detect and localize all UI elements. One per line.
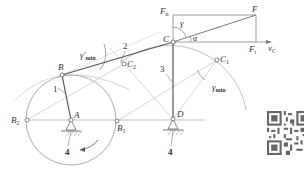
joint-c1 — [215, 58, 219, 62]
label-c2: C2 — [127, 59, 136, 70]
label-d: D — [176, 109, 184, 119]
leader-1 — [58, 88, 65, 93]
label-gamma-min-prime: γ'min — [80, 50, 96, 61]
construction-line-c2-ext — [110, 48, 124, 64]
rocker-arc — [120, 46, 246, 110]
label-link-4-right: 4 — [168, 147, 173, 157]
joint-c — [171, 40, 175, 44]
label-fn: Fn — [159, 6, 169, 17]
joint-c2 — [122, 62, 126, 66]
linkage-diagram: A B B1 B2 C C1 C2 D F Fn Ft vC γ α γ'min… — [0, 0, 304, 181]
joint-b — [60, 73, 64, 77]
label-gamma: γ — [180, 18, 184, 28]
label-link-4-left: 4 — [65, 147, 70, 157]
construction-line-b-ext — [62, 32, 160, 75]
label-f: F — [251, 4, 258, 14]
gamma-arc — [173, 27, 186, 37]
label-a: A — [73, 110, 80, 120]
leader-4-right — [171, 130, 173, 146]
label-c1: C1 — [220, 54, 229, 65]
alpha-arc — [190, 36, 191, 42]
label-ft: Ft — [248, 44, 257, 55]
label-vc: vC — [268, 43, 277, 54]
coupler-link — [62, 42, 173, 75]
label-link-3: 3 — [160, 64, 165, 74]
label-b1: B1 — [117, 123, 126, 134]
coupler-extension — [173, 15, 256, 42]
joints — [25, 40, 219, 123]
label-b: B — [58, 62, 64, 72]
joint-d — [171, 117, 175, 121]
qr-code — [267, 110, 304, 156]
label-c: C — [163, 34, 170, 44]
construction-line-b1-c1 — [117, 60, 217, 121]
label-link-1: 1 — [53, 84, 58, 94]
hatch-a — [66, 131, 82, 136]
label-b2: B2 — [11, 115, 20, 126]
label-link-2: 2 — [123, 41, 128, 51]
leader-3 — [166, 74, 172, 82]
joint-a — [69, 118, 73, 122]
crank-link — [62, 75, 71, 120]
label-gamma-min: γmin — [212, 82, 226, 93]
b-arc — [15, 75, 130, 100]
hatch-d — [168, 130, 184, 135]
joint-b2 — [25, 118, 29, 122]
